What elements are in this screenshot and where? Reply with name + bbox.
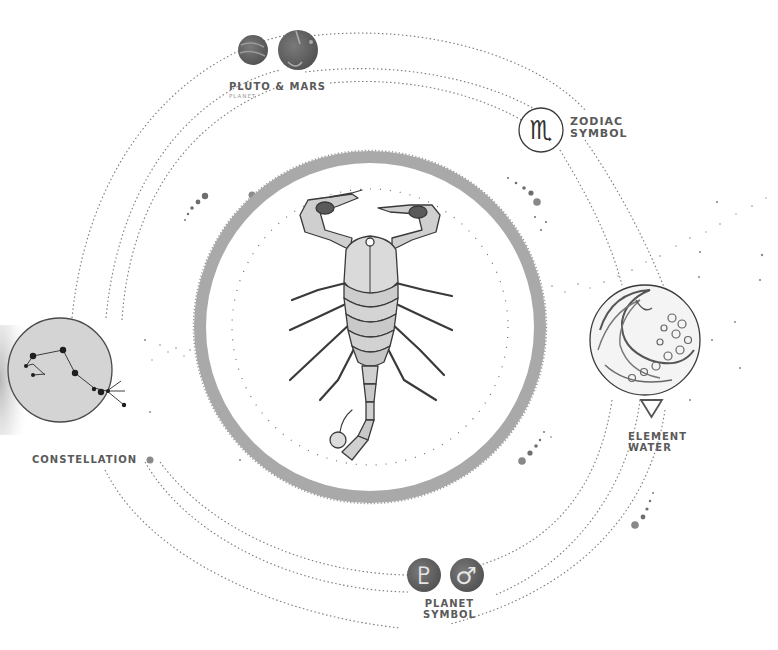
scorpion-illustration [290, 190, 452, 460]
dot-cluster-upper-right [507, 177, 547, 231]
orbit-inner-top-right [330, 81, 530, 125]
planet-label-subtitle: PLANET [229, 94, 326, 100]
orbit-mid-top-right [305, 69, 552, 120]
constellation-label: CONSTELLATION [32, 455, 137, 466]
dot-cluster-lower-right [518, 431, 552, 465]
element-label-line2: WATER [628, 443, 687, 454]
planet-symbol-label-line1: PLANET [423, 599, 476, 610]
zodiac-label: ZODIAC SYMBOL [570, 116, 628, 139]
orbit-right-upper-1 [585, 140, 665, 290]
planet-symbol-label: PLANET SYMBOL [423, 599, 476, 620]
constellation-disc [8, 318, 126, 422]
water-triangle-icon [641, 400, 662, 417]
orbit-outer-top-right [310, 33, 585, 110]
zodiac-diagram: ♏ [0, 0, 778, 650]
scorpio-glyph-icon: ♏ [529, 115, 552, 145]
planet-symbol-label-line2: SYMBOL [423, 610, 476, 621]
orbit-right-lower-2 [495, 400, 640, 595]
constellation-dot [147, 457, 154, 464]
planet-label-title: PLUTO & MARS [229, 81, 326, 92]
pluto-mars-planets [238, 30, 318, 70]
mars-glyph-icon: ♂ [455, 562, 477, 590]
planet-label: PLUTO & MARS PLANET [229, 82, 326, 99]
zodiac-symbol-badge: ♏ [519, 108, 563, 152]
pluto-planet [238, 35, 268, 65]
planet-symbol-discs: ♇ ♂ [407, 558, 484, 592]
orbit-right-lower-1 [480, 400, 612, 565]
constellation-label-title: CONSTELLATION [32, 454, 137, 465]
water-planet [590, 285, 700, 395]
orbit-bottom-mid [145, 462, 408, 592]
zodiac-label-line1: ZODIAC [570, 116, 628, 128]
zodiac-label-line2: SYMBOL [570, 128, 628, 140]
element-label-line1: ELEMENT [628, 432, 687, 443]
orbit-right-upper-2 [560, 150, 622, 285]
diagram-canvas: ♏ [0, 0, 778, 650]
pluto-glyph-icon: ♇ [413, 562, 435, 590]
element-label: ELEMENT WATER [628, 432, 687, 453]
